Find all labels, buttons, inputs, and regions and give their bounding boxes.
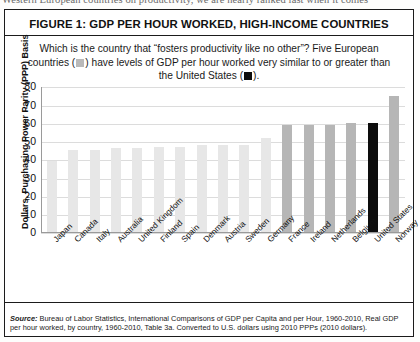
y-axis-tick-label: 0 xyxy=(10,226,36,238)
chart: Dollars, Purchasing Power Parity (PPP) B… xyxy=(9,85,407,295)
y-axis-tick-label: 50 xyxy=(10,135,36,147)
x-axis-category: Japan xyxy=(47,235,57,295)
x-axis-category: Denmark xyxy=(197,235,207,295)
y-axis-tick-label: 70 xyxy=(10,99,36,111)
x-axis-category: Austria xyxy=(218,235,228,295)
legend-swatch-black xyxy=(244,72,252,80)
x-axis-category: Australia xyxy=(111,235,121,295)
figure-subtitle: Which is the country that “fosters produ… xyxy=(21,42,397,82)
x-axis-line xyxy=(41,232,405,233)
bar-series xyxy=(41,87,405,232)
x-axis-category: France xyxy=(282,235,292,295)
subtitle-text-2: ) have levels of GDP per hour worked ver… xyxy=(85,57,390,81)
x-axis-category: Belgium xyxy=(346,235,356,295)
x-axis-category: United Kingdom xyxy=(132,235,142,295)
y-axis-tick-label: 10 xyxy=(10,208,36,220)
title-divider xyxy=(5,35,413,36)
bar xyxy=(47,161,57,232)
bar xyxy=(304,125,314,233)
y-axis-tick-label: 40 xyxy=(10,153,36,165)
figure-title: FIGURE 1: GDP PER HOUR WORKED, HIGH-INCO… xyxy=(11,18,407,30)
x-axis-categories: JapanCanadaItalyAustraliaUnited KingdomF… xyxy=(41,235,405,295)
x-axis-category: Italy xyxy=(90,235,100,295)
y-axis-tick-label: 30 xyxy=(10,172,36,184)
source-text: Bureau of Labor Statistics, Internationa… xyxy=(10,314,398,333)
page-bleed-line: Western European countries on productivi… xyxy=(0,0,420,5)
y-axis-tick-label: 60 xyxy=(10,117,36,129)
source-divider xyxy=(5,302,413,303)
bar xyxy=(325,125,335,233)
y-axis-tick-label: 80 xyxy=(10,80,36,92)
bar xyxy=(68,150,78,232)
plot-area: 01020304050607080 xyxy=(41,87,405,233)
bar xyxy=(111,148,121,232)
legend-swatch-gray xyxy=(76,59,84,67)
source-label: Source: xyxy=(10,314,38,323)
x-axis-category: Germany xyxy=(261,235,271,295)
x-axis-category: United States xyxy=(368,235,378,295)
source-note: Source: Bureau of Labor Statistics, Inte… xyxy=(10,314,408,333)
x-axis-category: Ireland xyxy=(304,235,314,295)
bar xyxy=(197,145,207,233)
x-axis-category: Sweden xyxy=(239,235,249,295)
figure-box: FIGURE 1: GDP PER HOUR WORKED, HIGH-INCO… xyxy=(4,9,414,337)
subtitle-text-3: ). xyxy=(253,70,259,81)
page-bleed-text: Western European countries on productivi… xyxy=(0,0,420,9)
x-axis-category: Finland xyxy=(154,235,164,295)
x-axis-category: Spain xyxy=(175,235,185,295)
x-axis-category: Norway xyxy=(389,235,399,295)
x-axis-category: Canada xyxy=(68,235,78,295)
y-axis-tick-label: 20 xyxy=(10,190,36,202)
x-axis-category: Netherlands xyxy=(325,235,335,295)
